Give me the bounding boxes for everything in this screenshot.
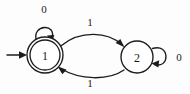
- fsm-canvas: 1 2 0 1 1 0: [0, 0, 190, 94]
- self-loop-2-label: 0: [176, 51, 182, 63]
- start-arrow-head: [19, 51, 27, 59]
- start-arrow: [7, 51, 27, 59]
- transition-1-to-2-path: [62, 34, 122, 45]
- state-2-label: 2: [134, 51, 140, 65]
- transition-2-to-1: [58, 66, 125, 77]
- state-node-2[interactable]: 2: [121, 41, 153, 73]
- transition-1-to-2-label: 1: [87, 16, 93, 28]
- state-node-1[interactable]: 1: [27, 37, 63, 73]
- state-1-label: 1: [42, 49, 48, 63]
- transition-2-to-1-label: 1: [87, 77, 93, 89]
- self-loop-1-label: 0: [41, 3, 47, 15]
- fsm-diagram: 1 2 0 1 1 0: [0, 0, 190, 94]
- transition-self-loop-state-2: [152, 48, 166, 68]
- transition-1-to-2: [62, 34, 125, 47]
